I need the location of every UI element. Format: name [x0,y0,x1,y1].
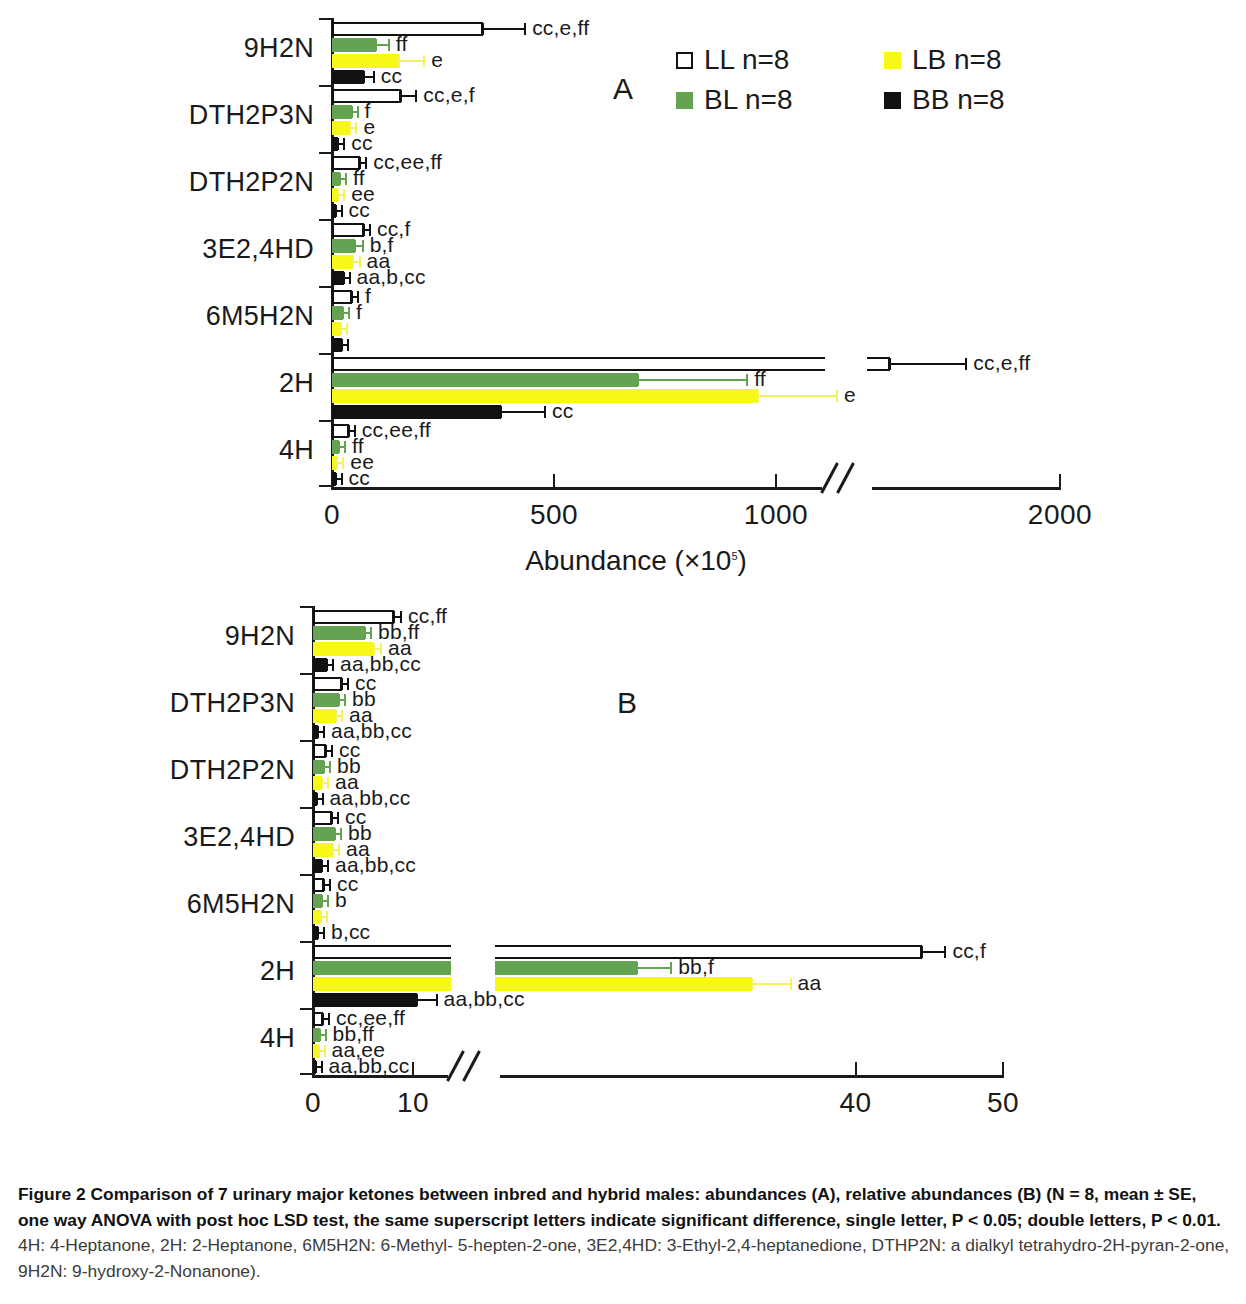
x-tick-label: 0 [272,499,392,531]
significance-label: cc [552,399,573,423]
xaxis-title-text-a: Abundance (×10 [525,545,731,576]
error-bar-cap [342,307,344,319]
legend-label-bl: BL n=8 [704,84,792,116]
error-bar-cap [352,256,354,268]
error-bar-cap [321,1061,323,1073]
error-bar-cap [363,71,365,83]
error-bar-cap [343,138,345,150]
x-tick-label: 10 [353,1087,473,1119]
error-bar-cap [345,173,347,185]
bar-3e2-4hd-lb [313,843,333,857]
category-label-3e2-4hd: 3E2,4HD [63,822,295,853]
y-tick [300,673,313,675]
y-tick [319,353,332,355]
caption-bold: Figure 2 Comparison of 7 urinary major k… [18,1184,1221,1230]
legend-label-ll: LL n=8 [704,44,789,76]
bar-9h2n-bl [332,38,376,52]
error-bar-cap [338,694,340,706]
category-label-6m5h2n: 6M5H2N [63,889,295,920]
error-bar-cap [342,457,344,469]
error-bar-cap [636,962,638,974]
error-bar-cap [836,390,838,402]
x-tick-label: 1000 [716,499,836,531]
bar-9h2n-bb [313,658,327,672]
category-label-9h2n: 9H2N [63,621,295,652]
significance-label: cc,e,ff [532,16,589,40]
category-label-9h2n: 9H2N [82,33,314,64]
error-bar-cap [322,1013,324,1025]
significance-label: cc [349,466,370,490]
bar-2h-ll [332,357,890,371]
y-tick [319,85,332,87]
category-label-4h: 4H [82,435,314,466]
error-bar-cap [341,205,343,217]
error-bar-cap [331,812,333,824]
error-bar-cap [339,173,341,185]
x-tick-label: 50 [943,1087,1063,1119]
category-label-3e2-4hd: 3E2,4HD [82,234,314,265]
y-tick [319,152,332,154]
error-bar [638,379,747,381]
error-bar-cap [344,441,346,453]
bar-2h-lb [313,977,752,991]
significance-label: cc [381,64,402,88]
error-bar-cap [324,1045,326,1057]
error-bar-cap [375,39,377,51]
panel-b-relative-abundance: 9H2NDTH2P3NDTH2P2N3E2,4HD6M5H2N2H4H01040… [0,590,1246,1170]
error-bar [483,28,525,30]
bar-2h-ll [313,945,922,959]
error-bar-cap [670,962,672,974]
error-bar-cap [321,777,323,789]
error-bar-cap [332,659,334,671]
error-bar-cap [341,473,343,485]
bar-9h2n-bl [313,626,365,640]
error-bar-cap [334,828,336,840]
significance-label: cc [349,198,370,222]
error-bar-cap [335,473,337,485]
error-bar-cap [944,946,946,958]
bar-2h-bl [332,373,638,387]
error-bar-cap [323,726,325,738]
x-tick [1002,1062,1004,1076]
error-bar-cap [362,240,364,252]
significance-label: e [431,48,443,72]
error-bar-cap [889,358,891,370]
error-bar-cap [315,1061,317,1073]
error-bar [376,44,389,46]
error-bar-cap [329,879,331,891]
error-bar-cap [348,425,350,437]
error-bar-cap [338,441,340,453]
legend-item-bb: BB n=8 [884,84,1005,116]
category-label-dth2p3n: DTH2P3N [82,100,314,131]
error-bar-cap [415,90,417,102]
figure-page: 9H2NDTH2P3NDTH2P2N3E2,4HD6M5H2N2H4H05001… [0,0,1246,1304]
x-tick [1059,474,1061,488]
significance-label: cc,e,f [423,83,474,107]
error-bar-cap [357,106,359,118]
bar-dth2p3n-ll [313,677,342,691]
xaxis-title-tail-a: ) [738,545,747,576]
error-bar-cap [336,457,338,469]
y-tick [300,740,313,742]
x-axis-line [331,487,1061,490]
significance-label: ff [754,367,766,391]
significance-label: cc,e,ff [973,351,1030,375]
error-bar-cap [351,291,353,303]
significance-label: aa [798,971,822,995]
significance-label: bb,f [678,955,714,979]
category-label-2h: 2H [63,956,295,987]
x-tick-label: 40 [796,1087,916,1119]
bar-break-mask [825,355,867,373]
error-bar [637,967,671,969]
error-bar-cap [348,307,350,319]
bar-3e2-4hd-ll [332,223,364,237]
y-tick [300,941,313,943]
y-tick [300,874,313,876]
significance-label: aa,bb,cc [340,652,421,676]
category-label-dth2p3n: DTH2P3N [63,688,295,719]
y-tick [319,420,332,422]
bar-3e2-4hd-bl [313,827,335,841]
category-label-6m5h2n: 6M5H2N [82,301,314,332]
significance-label: cc,f [952,939,985,963]
significance-label: b [335,888,347,912]
